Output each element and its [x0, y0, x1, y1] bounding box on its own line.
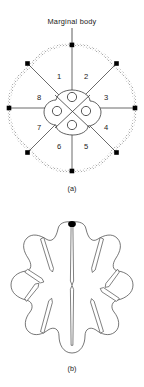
marginal-body-icon	[68, 221, 76, 227]
cleft-icon	[70, 285, 73, 345]
panel-b-caption: (b)	[0, 364, 144, 373]
figure-root: Marginal body	[0, 0, 144, 387]
cleft-icon	[70, 225, 73, 285]
panel-b-diagram	[0, 0, 144, 387]
